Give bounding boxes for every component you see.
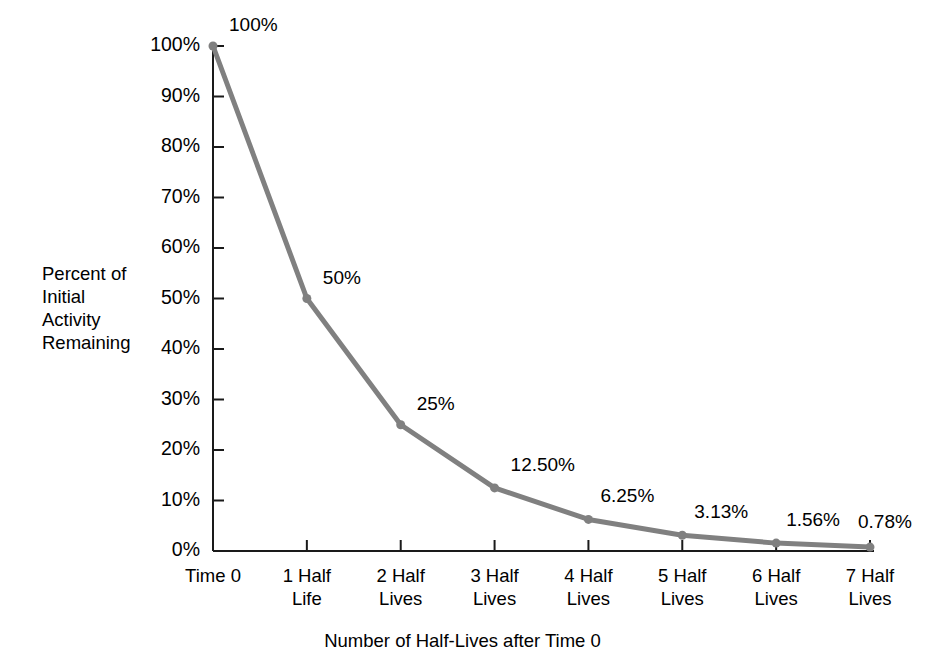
y-axis-tick-label: 60% [120, 235, 200, 258]
x-axis-tick-label: 7 Half Lives [815, 564, 925, 610]
data-point-marker [584, 515, 593, 524]
data-point-label: 1.56% [786, 509, 840, 531]
data-point-label: 100% [229, 14, 278, 36]
y-axis-tick-label: 40% [120, 336, 200, 359]
data-point-marker [396, 420, 405, 429]
y-axis-tick-label: 30% [120, 387, 200, 410]
data-point-label: 25% [417, 393, 455, 415]
data-point-marker [772, 539, 781, 548]
data-point-label: 3.13% [694, 501, 748, 523]
data-point-marker [678, 531, 687, 540]
y-axis-tick-label: 70% [120, 185, 200, 208]
data-point-label: 6.25% [600, 485, 654, 507]
y-axis-tick-label: 20% [120, 437, 200, 460]
x-axis-title: Number of Half-Lives after Time 0 [0, 630, 925, 652]
data-point-marker [490, 483, 499, 492]
data-point-label: 0.78% [858, 511, 912, 533]
y-axis-tick-label: 50% [120, 286, 200, 309]
y-axis-tick-label: 80% [120, 134, 200, 157]
y-axis-tick-label: 0% [120, 538, 200, 561]
data-point-marker [866, 543, 875, 552]
data-point-marker [302, 294, 311, 303]
y-axis-tick-label: 90% [120, 84, 200, 107]
y-axis-tick-label: 10% [120, 488, 200, 511]
data-point-label: 50% [323, 267, 361, 289]
data-point-label: 12.50% [511, 454, 575, 476]
decay-chart: Percent of Initial Activity Remaining 10… [0, 0, 925, 663]
y-axis-tick-label: 100% [120, 33, 200, 56]
data-point-marker [209, 42, 218, 51]
